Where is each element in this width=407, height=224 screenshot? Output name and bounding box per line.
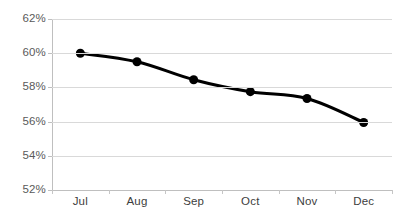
gridline <box>52 53 392 54</box>
x-axis-tick-mark <box>279 190 280 194</box>
gridline <box>52 156 392 157</box>
data-point-marker <box>303 94 312 103</box>
line-chart: 62%60%58%56%54%52% JulAugSepOctNovDec <box>0 0 407 224</box>
x-axis-tick-mark <box>392 190 393 194</box>
gridline <box>52 87 392 88</box>
y-axis-tick-mark <box>48 156 52 157</box>
y-axis-tick-label: 56% <box>22 116 46 128</box>
x-axis-tick-mark <box>165 190 166 194</box>
y-axis-tick-label: 62% <box>22 13 46 25</box>
plot-area <box>52 19 392 190</box>
series-line-group <box>52 19 392 190</box>
y-axis-tick-mark <box>48 122 52 123</box>
x-axis-tick-label: Aug <box>126 196 147 208</box>
x-axis-tick-label: Sep <box>183 196 204 208</box>
gridline <box>52 122 392 123</box>
y-axis-tick-label: 58% <box>22 81 46 93</box>
y-axis-tick-mark <box>48 53 52 54</box>
x-axis-tick-label: Dec <box>353 196 374 208</box>
gridline <box>52 19 392 20</box>
y-axis-tick-label: 60% <box>22 47 46 59</box>
y-axis-tick-mark <box>48 19 52 20</box>
x-axis-tick-label: Jul <box>73 196 88 208</box>
data-point-marker <box>189 75 198 84</box>
y-axis-tick-mark <box>48 190 52 191</box>
x-axis-tick-label: Nov <box>296 196 317 208</box>
x-axis-tick-mark <box>109 190 110 194</box>
x-axis-tick-mark <box>52 190 53 194</box>
y-axis-tick-labels: 62%60%58%56%54%52% <box>0 0 46 224</box>
data-point-marker <box>246 87 255 96</box>
y-axis-tick-label: 52% <box>22 184 46 196</box>
x-axis-tick-mark <box>222 190 223 194</box>
x-axis-tick-label: Oct <box>241 196 260 208</box>
y-axis-tick-label: 54% <box>22 150 46 162</box>
y-axis-tick-mark <box>48 87 52 88</box>
data-point-marker <box>133 57 142 66</box>
x-axis-tick-mark <box>335 190 336 194</box>
